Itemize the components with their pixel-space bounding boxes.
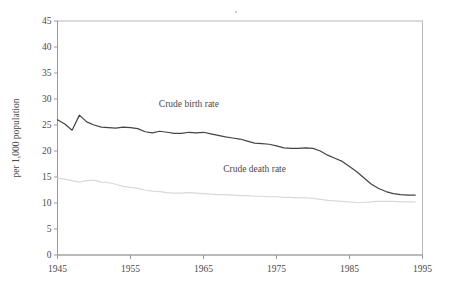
y-tick-label-30: 30 (42, 94, 52, 104)
x-tick-label-1955: 1955 (121, 264, 140, 274)
series-line-crude-death-rate (58, 178, 416, 202)
crude-birth-death-rate-line-chart: 0510152025303540451945195519651975198519… (0, 0, 452, 297)
plot-area: 0510152025303540451945195519651975198519… (11, 16, 433, 273)
y-tick-label-25: 25 (42, 120, 52, 130)
x-tick-label-1945: 1945 (48, 264, 67, 274)
y-tick-label-5: 5 (47, 224, 52, 234)
x-tick-label-1985: 1985 (340, 264, 359, 274)
y-tick-label-20: 20 (42, 146, 52, 156)
y-tick-label-35: 35 (42, 68, 52, 78)
plot-frame (58, 21, 423, 255)
x-tick-label-1975: 1975 (267, 264, 286, 274)
chart-figure: 0510152025303540451945195519651975198519… (0, 0, 452, 297)
x-tick-label-1965: 1965 (194, 264, 213, 274)
y-tick-label-10: 10 (42, 198, 52, 208)
y-tick-label-45: 45 (42, 16, 52, 26)
y-tick-label-40: 40 (42, 42, 52, 52)
y-tick-label-0: 0 (47, 250, 52, 260)
x-tick-label-1995: 1995 (413, 264, 432, 274)
series-annotation-crude-birth-rate: Crude birth rate (159, 99, 219, 109)
image-speck-artifact (235, 11, 237, 13)
y-tick-label-15: 15 (42, 172, 52, 182)
series-annotation-crude-death-rate: Crude death rate (223, 164, 286, 174)
y-axis-title: per 1,000 population (11, 98, 21, 177)
